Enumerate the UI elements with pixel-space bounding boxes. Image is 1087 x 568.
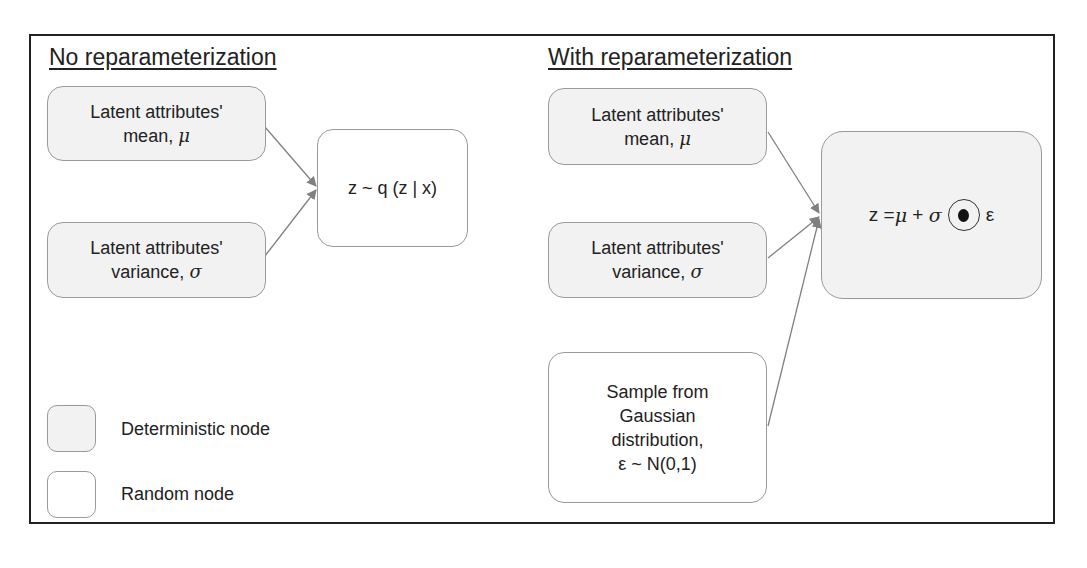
left-mean-node: Latent attributes' mean, μ: [47, 86, 266, 161]
legend-deterministic-swatch: [47, 405, 96, 452]
right-sample-node: Sample from Gaussian distribution, ε ~ N…: [548, 352, 767, 503]
mu-symbol: μ: [679, 128, 691, 149]
legend-deterministic-label: Deterministic node: [121, 419, 270, 440]
legend-random-label: Random node: [121, 484, 234, 505]
hadamard-product-icon: [948, 199, 980, 231]
left-variance-node: Latent attributes' variance, σ: [47, 222, 266, 298]
left-panel-title: No reparameterization: [49, 44, 277, 71]
mu-symbol: μ: [178, 125, 190, 146]
node-label: Latent attributes': [90, 236, 223, 260]
sigma-symbol: σ: [189, 261, 201, 282]
right-mean-node: Latent attributes' mean, μ: [548, 88, 767, 165]
right-output-node: z = μ + σ ε: [821, 131, 1042, 299]
sigma-symbol: σ: [929, 203, 942, 227]
right-panel-title: With reparameterization: [548, 44, 792, 71]
edge-mean-to-z-left: [265, 127, 316, 186]
reparameterization-formula: z = μ + σ ε: [869, 199, 994, 231]
sigma-symbol: σ: [690, 261, 702, 282]
right-variance-node: Latent attributes' variance, σ: [548, 222, 767, 298]
legend-random-swatch: [47, 471, 96, 518]
node-label: Latent attributes': [591, 236, 724, 260]
node-label: Latent attributes': [90, 100, 223, 124]
left-output-node: z ~ q (z | x): [317, 129, 468, 247]
mu-symbol: μ: [895, 203, 907, 227]
epsilon-symbol: ε: [986, 203, 994, 227]
node-label: z ~ q (z | x): [348, 176, 437, 200]
node-label: Latent attributes': [591, 103, 724, 127]
edge-mean-to-z-right: [768, 132, 819, 213]
edge-variance-to-z-left: [265, 190, 316, 256]
edge-sample-to-z-right: [768, 219, 819, 426]
